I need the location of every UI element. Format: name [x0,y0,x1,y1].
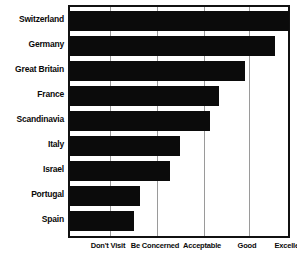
bar-scandinavia [70,111,210,131]
bar-portugal [70,186,140,206]
bar-germany [70,36,275,56]
xtick-label-acceptable: Acceptable [183,241,221,250]
category-label-portugal: Portugal [0,189,64,199]
category-label-france: France [0,89,64,99]
category-label-spain: Spain [0,214,64,224]
bar-great-britain [70,61,245,81]
category-label-scandinavia: Scandinavia [0,114,64,124]
bar-france [70,86,219,106]
value-axis-labels: Don't Visit Be Concerned Acceptable Good… [0,241,297,261]
category-label-italy: Italy [0,139,64,149]
plot-area [68,5,290,238]
bar-chart: Switzerland Germany Great Britain France… [0,0,297,263]
xtick-label-excellent: Excellent [274,241,297,250]
bar-italy [70,136,180,156]
category-label-switzerland: Switzerland [0,14,64,24]
plot-inner [70,7,288,236]
xtick-label-good: Good [238,241,257,250]
xtick-label-be-concerned: Be Concerned [131,241,179,250]
category-label-great-britain: Great Britain [0,64,64,74]
bar-israel [70,161,170,181]
bar-spain [70,211,134,231]
category-axis-labels: Switzerland Germany Great Britain France… [0,5,64,238]
category-label-germany: Germany [0,39,64,49]
category-label-israel: Israel [0,164,64,174]
bar-switzerland [70,11,289,31]
xtick-label-dont-visit: Don't Visit [91,241,125,250]
